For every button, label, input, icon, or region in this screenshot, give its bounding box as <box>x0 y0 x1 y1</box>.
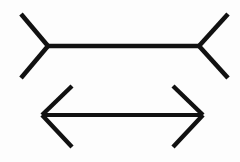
illusion-canvas: Müller-Lyer Illusion <box>0 0 240 162</box>
muller-lyer-figure <box>0 0 240 162</box>
canvas-background <box>0 0 240 162</box>
